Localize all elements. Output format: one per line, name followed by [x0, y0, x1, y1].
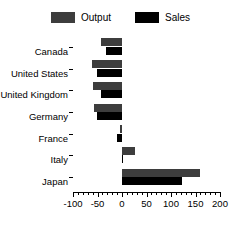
bar-sales-united-kingdom: [101, 90, 122, 98]
x-axis-major-tick: [220, 192, 221, 197]
legend-entry-output: Output: [51, 12, 111, 23]
x-axis-minor-tick: [142, 192, 143, 195]
legend-swatch-output: [51, 12, 75, 23]
bars-layer: [0, 32, 241, 192]
x-axis-minor-tick: [132, 192, 133, 195]
plot-area: CanadaUnited StatesUnited KingdomGermany…: [0, 32, 241, 227]
bar-output-france: [120, 125, 122, 133]
x-axis-tick-label: 150: [188, 199, 204, 209]
bar-sales-italy: [122, 155, 123, 163]
legend-swatch-sales: [135, 12, 159, 23]
x-axis-minor-tick: [205, 192, 206, 195]
legend-label-sales: Sales: [165, 12, 190, 23]
x-axis-minor-tick: [186, 192, 187, 195]
bar-sales-france: [117, 134, 122, 142]
x-axis-minor-tick: [181, 192, 182, 195]
x-axis-tick-label: -50: [91, 199, 105, 209]
x-axis-major-tick: [122, 192, 123, 197]
x-axis-minor-tick: [78, 192, 79, 195]
x-axis: -100-50050100150200: [0, 192, 241, 227]
x-axis-minor-tick: [151, 192, 152, 195]
x-axis-major-tick: [98, 192, 99, 197]
x-axis-tick-label: -100: [63, 199, 82, 209]
x-axis-minor-tick: [215, 192, 216, 195]
x-axis-minor-tick: [137, 192, 138, 195]
x-axis-minor-tick: [166, 192, 167, 195]
legend-label-output: Output: [81, 12, 111, 23]
bar-output-united-states: [92, 60, 122, 68]
x-axis-tick-label: 100: [163, 199, 179, 209]
x-axis-minor-tick: [83, 192, 84, 195]
x-axis-minor-tick: [127, 192, 128, 195]
x-axis-minor-tick: [191, 192, 192, 195]
legend-entry-sales: Sales: [135, 12, 190, 23]
x-axis-major-tick: [171, 192, 172, 197]
x-axis-minor-tick: [93, 192, 94, 195]
bar-output-united-kingdom: [93, 82, 122, 90]
bar-output-japan: [122, 169, 200, 177]
x-axis-minor-tick: [117, 192, 118, 195]
bar-output-germany: [94, 104, 122, 112]
bar-sales-canada: [106, 47, 122, 55]
x-axis-minor-tick: [200, 192, 201, 195]
bar-output-italy: [122, 147, 135, 155]
bar-sales-united-states: [97, 69, 122, 77]
x-axis-minor-tick: [176, 192, 177, 195]
x-axis-minor-tick: [102, 192, 103, 195]
bar-sales-japan: [122, 177, 182, 185]
x-axis-minor-tick: [88, 192, 89, 195]
x-axis-tick-label: 0: [119, 199, 124, 209]
x-axis-tick-label: 50: [141, 199, 152, 209]
x-axis-minor-tick: [112, 192, 113, 195]
chart-legend: Output Sales: [0, 9, 241, 25]
x-axis-minor-tick: [210, 192, 211, 195]
x-axis-major-tick: [147, 192, 148, 197]
x-axis-minor-tick: [156, 192, 157, 195]
x-axis-major-tick: [196, 192, 197, 197]
x-axis-minor-tick: [161, 192, 162, 195]
x-axis-minor-tick: [107, 192, 108, 195]
x-axis-tick-label: 200: [212, 199, 228, 209]
bar-sales-germany: [97, 112, 122, 120]
bar-output-canada: [101, 38, 122, 46]
x-axis-major-tick: [73, 192, 74, 197]
bar-chart: Output Sales CanadaUnited StatesUnited K…: [0, 0, 241, 227]
